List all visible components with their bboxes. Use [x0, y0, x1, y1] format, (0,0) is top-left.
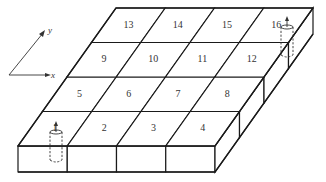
cell-label-6: 6: [126, 88, 131, 99]
y-axis-arrowhead: [39, 30, 45, 37]
front-face: [117, 146, 166, 172]
cell-label-8: 8: [225, 88, 230, 99]
cell-label-16: 16: [271, 19, 281, 30]
cell-label-3: 3: [151, 122, 156, 133]
y-axis-label: y: [47, 25, 52, 35]
cell-label-15: 15: [222, 19, 232, 30]
cell-label-13: 13: [123, 19, 133, 30]
cell-label-14: 14: [173, 19, 183, 30]
cell-label-2: 2: [102, 122, 107, 133]
cell-label-11: 11: [198, 53, 208, 64]
coordinate-axes: x y: [9, 25, 55, 80]
block-grid-diagram: x y 12345678910111213141516: [0, 0, 326, 182]
cell-label-10: 10: [148, 53, 158, 64]
cell-label-5: 5: [77, 88, 82, 99]
cell-label-7: 7: [175, 88, 180, 99]
front-face: [18, 146, 67, 172]
cell-label-4: 4: [200, 122, 205, 133]
y-axis-line: [9, 33, 43, 75]
x-axis-label: x: [50, 70, 55, 80]
front-face: [67, 146, 116, 172]
cell-label-12: 12: [247, 53, 257, 64]
front-face: [166, 146, 215, 172]
cell-label-9: 9: [101, 53, 106, 64]
